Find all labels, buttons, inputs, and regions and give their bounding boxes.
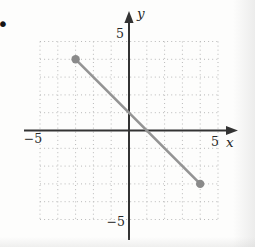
x-tick-label-5: 5 — [211, 134, 219, 149]
x-tick-label-neg5: −5 — [24, 131, 42, 146]
y-tick-label-5: 5 — [116, 26, 124, 41]
x-axis-label: x — [226, 134, 234, 150]
segment-endpoint-lower-right — [196, 180, 204, 188]
y-axis-arrow-icon — [124, 11, 133, 23]
coordinate-plane: y x 5 −5 −5 5 — [0, 0, 255, 247]
y-tick-label-neg5: −5 — [107, 214, 125, 229]
scanned-textbook-figure: • y x 5 −5 −5 5 — [0, 0, 255, 247]
y-axis-label: y — [136, 5, 145, 21]
segment-endpoint-upper-left — [71, 55, 79, 63]
line-segment — [76, 59, 201, 184]
